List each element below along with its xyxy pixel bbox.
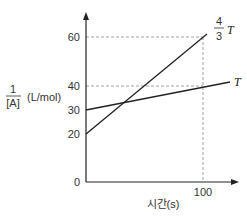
y-tick-60: 60 <box>68 31 80 43</box>
x-axis-arrow-icon <box>231 179 239 185</box>
y-label-denominator: [A] <box>6 97 19 109</box>
label-4-3-num: 4 <box>216 15 222 27</box>
y-label-numerator: 1 <box>10 83 16 95</box>
y-label-unit: (L/mol) <box>27 91 61 103</box>
label-T: T <box>234 75 242 89</box>
x-tick-100: 100 <box>194 186 212 198</box>
chart: 60 40 30 20 0 100 시간(s) 1 [A] (L/mol) 4 … <box>0 0 247 218</box>
y-tick-30: 30 <box>68 104 80 116</box>
y-tick-20: 20 <box>68 128 80 140</box>
y-tick-0: 0 <box>74 176 80 188</box>
x-axis-label: 시간(s) <box>147 198 180 210</box>
label-4-3-den: 3 <box>216 30 222 42</box>
y-axis-arrow-icon <box>83 12 89 20</box>
series-4-3-T <box>86 34 207 134</box>
y-tick-40: 40 <box>68 80 80 92</box>
label-4-3-T: T <box>227 23 235 37</box>
